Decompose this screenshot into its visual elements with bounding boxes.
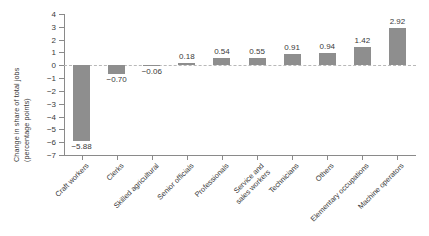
y-tick-label: 2 [16,35,56,44]
y-tick-mark [59,14,64,15]
y-tick-mark [59,129,64,130]
bar [249,58,266,65]
bar-value-label: −0.06 [142,67,162,76]
y-tick-label: −7 [16,151,56,160]
x-category-label: Others [315,162,337,184]
x-category-label-line: Others [315,162,337,184]
x-category-label: Professionals [194,162,231,199]
x-category-label: Clerks [105,162,126,183]
bar [319,53,336,65]
bar-value-label: 0.54 [214,47,230,56]
y-tick-label: −1 [16,74,56,83]
y-tick-label: 1 [16,48,56,57]
y-tick-label: −4 [16,112,56,121]
y-tick-mark [59,142,64,143]
x-tick-mark [152,156,153,160]
x-category-label-line: Craft workers [53,162,90,199]
x-category-label-line: Clerks [105,162,126,183]
bar-value-label: 1.42 [355,36,371,45]
y-tick-label: −5 [16,125,56,134]
x-category-label: Service andsales workers [228,162,272,206]
y-tick-label: 0 [16,61,56,70]
x-tick-mark [222,156,223,160]
bar-value-label: 2.92 [390,17,406,26]
x-tick-mark [187,156,188,160]
x-tick-mark [257,156,258,160]
bar [108,65,125,74]
x-tick-mark [362,156,363,160]
y-tick-mark [59,155,64,156]
y-tick-label: −2 [16,86,56,95]
y-tick-mark [59,27,64,28]
x-category-label: Craft workers [53,162,90,199]
y-tick-mark [59,117,64,118]
x-tick-mark [397,156,398,160]
x-category-label: Technicians [268,162,301,195]
y-tick-mark [59,91,64,92]
bar [389,28,406,65]
y-axis-line [64,14,65,156]
bar [178,63,195,65]
bar-chart: Change in share of total jobs (percentag… [0,0,429,236]
x-tick-mark [117,156,118,160]
bar [213,58,230,65]
bar-value-label: 0.91 [284,43,300,52]
x-category-label-line: Senior officials [156,162,196,202]
x-tick-mark [327,156,328,160]
x-category-label: Senior officials [156,162,196,202]
x-tick-mark [82,156,83,160]
bar [73,65,90,140]
y-tick-label: 3 [16,22,56,31]
bar-value-label: 0.55 [249,47,265,56]
x-tick-mark [292,156,293,160]
y-tick-label: −3 [16,99,56,108]
bar [284,54,301,66]
y-tick-label: 4 [16,10,56,19]
y-tick-mark [59,78,64,79]
y-tick-mark [59,104,64,105]
y-tick-label: −6 [16,138,56,147]
x-category-label-line: Professionals [194,162,231,199]
bar [354,47,371,65]
bar-value-label: −5.88 [71,142,91,151]
bar-value-label: 0.94 [319,42,335,51]
x-category-label-line: Technicians [268,162,301,195]
bar-value-label: 0.18 [179,52,195,61]
bar-value-label: −0.70 [107,75,127,84]
y-tick-mark [59,52,64,53]
y-tick-mark [59,40,64,41]
